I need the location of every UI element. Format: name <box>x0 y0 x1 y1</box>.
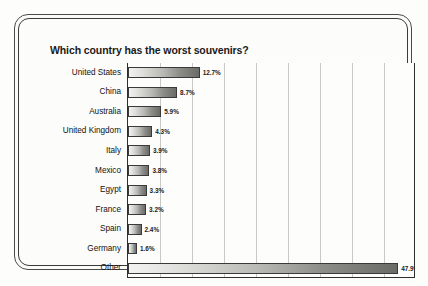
bar-value-label: 5.9% <box>164 108 179 115</box>
bar-row: 3.3% <box>128 180 415 200</box>
bar <box>128 106 161 117</box>
bar-row: 3.9% <box>128 141 415 161</box>
category-label: Mexico <box>95 166 121 175</box>
category-label: Spain <box>100 224 121 233</box>
category-label: France <box>96 205 121 214</box>
bar-row: 2.4% <box>128 219 415 239</box>
bar-value-label: 8.7% <box>180 89 195 96</box>
chart-screenshot: Which country has the worst souvenirs? U… <box>0 0 428 286</box>
bar-row: 47.9% <box>128 258 415 278</box>
bar <box>128 165 149 176</box>
chart-plot-area: United StatesChinaAustraliaUnited Kingdo… <box>47 63 419 278</box>
category-label: United States <box>72 68 121 77</box>
bar <box>128 185 147 196</box>
bar-row: 1.6% <box>128 239 415 259</box>
bar <box>128 67 200 78</box>
category-label: Italy <box>106 146 121 155</box>
category-label: China <box>100 87 121 96</box>
bar-value-label: 3.2% <box>149 206 164 213</box>
inner-frame-border: Which country has the worst souvenirs? U… <box>18 18 408 266</box>
bar-value-label: 3.9% <box>153 147 168 154</box>
bar-value-label: 3.3% <box>150 187 165 194</box>
bar <box>128 204 146 215</box>
bar-plot: 12.7%8.7%5.9%4.3%3.9%3.8%3.3%3.2%2.4%1.6… <box>127 63 415 278</box>
category-label: Other <box>101 263 121 272</box>
category-label: Australia <box>89 107 121 116</box>
bar <box>128 263 398 274</box>
category-label: Germany <box>87 244 121 253</box>
category-axis-labels: United StatesChinaAustraliaUnited Kingdo… <box>47 63 125 278</box>
bar-row: 3.2% <box>128 200 415 220</box>
bar-row: 4.3% <box>128 122 415 142</box>
category-label: United Kingdom <box>63 126 121 135</box>
bar-rows: 12.7%8.7%5.9%4.3%3.9%3.8%3.3%3.2%2.4%1.6… <box>128 63 414 277</box>
bar-row: 3.8% <box>128 161 415 181</box>
bar <box>128 126 152 137</box>
bar-value-label: 47.9% <box>401 265 415 272</box>
bar-value-label: 2.4% <box>145 226 160 233</box>
bar-value-label: 4.3% <box>155 128 170 135</box>
bar-value-label: 3.8% <box>152 167 167 174</box>
bar-row: 8.7% <box>128 83 415 103</box>
bar-value-label: 12.7% <box>203 69 221 76</box>
bar <box>128 145 150 156</box>
bar-value-label: 1.6% <box>140 245 155 252</box>
category-label: Egypt <box>100 185 121 194</box>
bar <box>128 87 177 98</box>
bar-row: 12.7% <box>128 63 415 83</box>
chart-title: Which country has the worst souvenirs? <box>50 44 249 56</box>
bar <box>128 224 142 235</box>
bar <box>128 243 137 254</box>
bar-row: 5.9% <box>128 102 415 122</box>
